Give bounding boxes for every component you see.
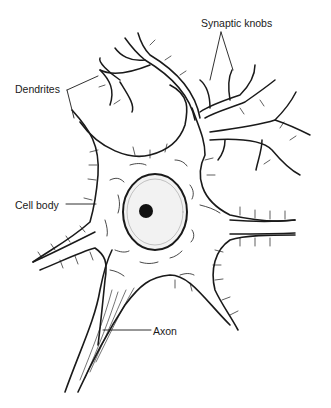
dendrite-right bbox=[230, 220, 295, 234]
dendrite-branches-right bbox=[200, 65, 310, 175]
dendrite-lower-left bbox=[33, 232, 95, 262]
axon-shape bbox=[65, 250, 230, 392]
nucleus bbox=[123, 174, 187, 250]
label-synaptic-knobs: Synaptic knobs bbox=[201, 18, 272, 29]
label-cell-body: Cell body bbox=[15, 200, 59, 211]
nucleolus bbox=[139, 204, 153, 218]
neuron-diagram: Synaptic knobs Dendrites Cell body Axon bbox=[0, 0, 331, 408]
label-axon: Axon bbox=[153, 326, 177, 337]
label-dendrites: Dendrites bbox=[15, 84, 60, 95]
dendrite-branches-left bbox=[100, 33, 200, 120]
